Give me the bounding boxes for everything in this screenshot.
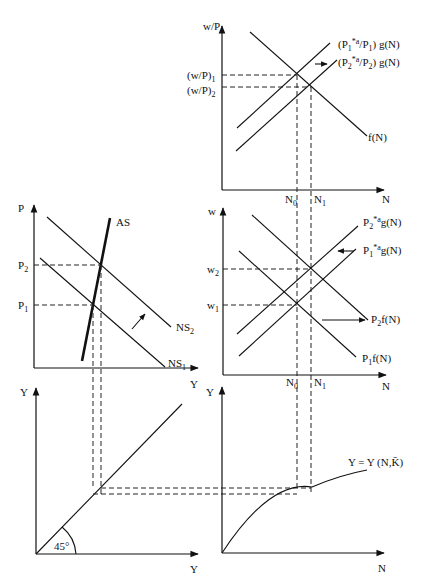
axis-label-y: Y [20,386,28,398]
axis-label-y: Y [206,386,214,398]
label-supply-p2: P2*ag(N) [363,215,402,231]
ns1-curve [40,258,165,367]
shift-arrow-icon [132,314,145,329]
label-demand-p2: P2f(N) [371,313,400,328]
label-demand-p1: P1f(N) [362,352,391,367]
45-degree-line [36,404,182,554]
label-ns1: NS1 [168,357,186,372]
labor-demand-p2 [252,215,368,320]
label-ns2: NS2 [176,321,194,336]
label-supply-2: (P2*a/P2) g(N) [338,55,400,71]
axis-label-wp: w/P [203,20,220,32]
tick-n0: N0 [285,193,297,208]
tick-n1: N1 [314,376,326,391]
axis-label-n: N [382,380,390,392]
labor-supply-curve-2 [236,60,337,151]
panel-production-function: Y N Y = Y (N,K̄) [206,386,403,574]
production-function-curve [222,470,367,553]
tick-p1: P1 [18,299,28,314]
label-supply-1: (P1*a/P1) g(N) [338,37,400,53]
label-supply-p1: P1*ag(N) [363,243,402,259]
tick-n0: N0 [286,376,298,391]
tick-wp2: (w/P)2 [187,84,215,99]
axis-label-w: w [208,205,216,217]
ns2-curve [47,217,171,327]
panel-real-wage-labor: w/P N (w/P)1 (w/P)2 N0 N1 (P1*a/P1) g(N)… [187,20,400,208]
label-as: AS [116,216,130,228]
economics-diagram: w/P N (w/P)1 (w/P)2 N0 N1 (P1*a/P1) g(N)… [0,0,422,588]
label-production-function: Y = Y (N,K̄) [348,456,403,469]
tick-w2: w2 [207,263,219,278]
panel-nominal-wage-labor: w N w2 w1 N0 N1 P2*ag(N) P1*ag(N) P2f(N)… [207,205,402,392]
tick-wp1: (w/P)1 [187,69,215,84]
axis-label-p: P [18,202,24,214]
angle-label: 45° [54,540,69,552]
panel-price-output: P Y P2 P1 AS NS2 NS1 [18,202,198,494]
tick-w1: w1 [207,299,219,314]
tick-p2: P2 [18,259,28,274]
as-curve [82,218,110,361]
axis-label-n: N [378,562,386,574]
tick-n1: N1 [314,193,326,208]
labor-supply-curve-1 [237,43,330,128]
axis-label-y-horizontal: Y [190,563,198,575]
axis-label-y: Y [190,378,198,390]
label-demand: f(N) [368,131,387,144]
panel-45-degree: Y Y 45° [20,386,311,575]
axis-label-n: N [382,193,390,205]
